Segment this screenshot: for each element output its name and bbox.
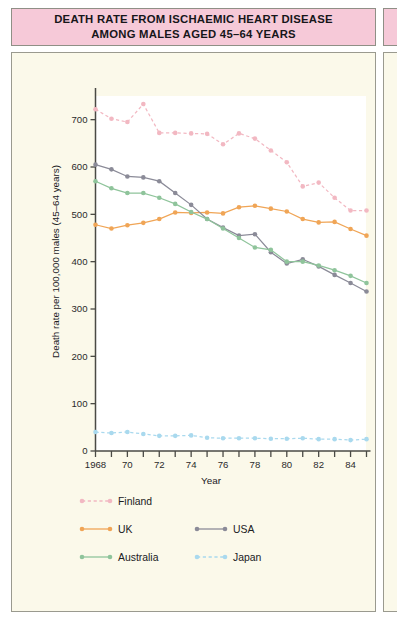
data-point	[237, 436, 242, 441]
x-tick-label: 76	[218, 459, 229, 470]
legend-item-australia[interactable]: Australia	[80, 552, 159, 563]
data-point	[173, 210, 178, 215]
data-point	[284, 160, 289, 165]
data-point	[221, 211, 226, 216]
series-group	[93, 102, 369, 443]
data-point	[284, 209, 289, 214]
data-point	[364, 437, 369, 442]
legend-label: USA	[233, 524, 254, 535]
legend-marker-end	[223, 527, 228, 532]
series-japan	[93, 430, 369, 443]
y-tick-label: 500	[71, 209, 87, 220]
data-point	[189, 203, 194, 208]
data-point	[332, 195, 337, 200]
legend-marker-end	[108, 555, 113, 560]
legend-item-finland[interactable]: Finland	[80, 496, 153, 507]
data-point	[157, 131, 162, 136]
axes-group: 0100200300400500600700196870727476788082…	[50, 88, 371, 486]
data-point	[269, 436, 274, 441]
x-axis-title: Year	[201, 475, 222, 486]
data-point	[332, 437, 337, 442]
data-point	[125, 223, 130, 228]
data-point	[189, 433, 194, 438]
data-point	[348, 227, 353, 232]
x-tick-label: 1968	[85, 459, 106, 470]
series-line	[96, 165, 367, 292]
data-point	[109, 186, 114, 191]
legend-item-usa[interactable]: USA	[195, 524, 255, 535]
y-tick-label: 100	[71, 398, 87, 409]
data-point	[93, 222, 98, 227]
series-usa	[93, 162, 369, 293]
data-point	[348, 438, 353, 443]
data-point	[269, 148, 274, 153]
data-point	[284, 436, 289, 441]
legend-marker-end	[108, 499, 113, 504]
legend-marker-start	[80, 527, 85, 532]
line-chart: 0100200300400500600700196870727476788082…	[12, 53, 377, 613]
data-point	[332, 268, 337, 273]
x-tick-label: 80	[281, 459, 292, 470]
y-axis-title: Death rate per 100,000 males (45–64 year…	[50, 165, 61, 358]
x-tick-label: 74	[186, 459, 197, 470]
data-point	[348, 274, 353, 279]
data-point	[316, 220, 321, 225]
legend-label: Japan	[233, 552, 262, 563]
data-point	[364, 233, 369, 238]
data-point	[316, 180, 321, 185]
data-point	[221, 226, 226, 231]
data-point	[189, 210, 194, 215]
data-point	[157, 195, 162, 200]
legend-label: UK	[118, 524, 133, 535]
x-tick-label: 78	[250, 459, 261, 470]
data-point	[364, 208, 369, 213]
y-tick-label: 700	[71, 114, 87, 125]
data-point	[221, 142, 226, 147]
data-point	[364, 281, 369, 286]
data-point	[157, 179, 162, 184]
data-point	[237, 205, 242, 210]
data-point	[237, 236, 242, 241]
y-tick-label: 400	[71, 256, 87, 267]
y-tick-label: 200	[71, 351, 87, 362]
data-point	[173, 131, 178, 136]
adjacent-panel-sliver	[383, 52, 397, 612]
data-point	[173, 434, 178, 439]
data-point	[300, 259, 305, 264]
data-point	[300, 184, 305, 189]
legend-item-uk[interactable]: UK	[80, 524, 133, 535]
data-point	[93, 107, 98, 112]
data-point	[221, 436, 226, 441]
legend-label: Finland	[118, 496, 152, 507]
data-point	[125, 191, 130, 196]
x-tick-label: 72	[154, 459, 165, 470]
legend-marker-start	[195, 527, 200, 532]
data-point	[253, 436, 258, 441]
y-tick-label: 600	[71, 161, 87, 172]
data-point	[141, 191, 146, 196]
data-point	[253, 245, 258, 250]
data-point	[348, 281, 353, 286]
data-point	[93, 430, 98, 435]
data-point	[173, 191, 178, 196]
data-point	[364, 289, 369, 294]
data-point	[109, 431, 114, 436]
data-point	[205, 217, 210, 222]
data-point	[253, 136, 258, 141]
y-tick-label: 300	[71, 303, 87, 314]
data-point	[125, 120, 130, 125]
data-point	[93, 179, 98, 184]
data-point	[237, 131, 242, 136]
data-point	[93, 162, 98, 167]
data-point	[316, 263, 321, 268]
data-point	[109, 226, 114, 231]
data-point	[157, 217, 162, 222]
x-tick-label: 84	[345, 459, 356, 470]
data-point	[205, 132, 210, 137]
data-point	[253, 232, 258, 237]
legend-item-japan[interactable]: Japan	[195, 552, 262, 563]
data-point	[269, 206, 274, 211]
y-tick-label: 0	[82, 445, 87, 456]
series-line	[96, 432, 367, 440]
x-tick-label: 70	[122, 459, 133, 470]
